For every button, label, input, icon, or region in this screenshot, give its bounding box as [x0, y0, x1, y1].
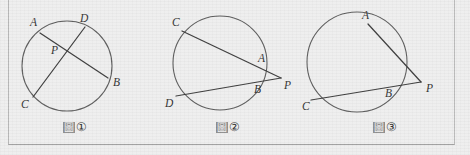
figure-2-caption: 圖② [150, 120, 305, 134]
figure-3-caption: 圖③ [300, 120, 470, 134]
figure-1-drawing: A D B C P [0, 0, 150, 120]
chord-cd [33, 27, 85, 97]
point-label-d: D [164, 97, 174, 109]
secant-pbc [311, 82, 421, 100]
caption-word-3: 圖 [373, 122, 385, 133]
point-label-a: A [29, 16, 38, 28]
figure-1: A D B C P 圖① [0, 0, 150, 155]
caption-number-1: ① [75, 120, 87, 134]
point-label-b: B [113, 76, 120, 88]
point-label-c: C [172, 16, 180, 28]
point-label-p: P [283, 79, 291, 91]
point-label-a: A [361, 9, 370, 21]
caption-number-3: ③ [385, 120, 397, 134]
tangent-pa [368, 24, 421, 82]
point-label-b: B [254, 83, 261, 95]
figure-1-caption: 圖① [0, 120, 150, 134]
circle-1 [22, 21, 112, 111]
figure-2: C A B D P 圖② [150, 0, 305, 155]
secant-pbd [176, 78, 281, 96]
point-label-d: D [79, 12, 89, 24]
circle-2 [173, 16, 267, 110]
point-label-a: A [257, 52, 266, 64]
point-label-c: C [302, 100, 310, 112]
figure-2-drawing: C A B D P [150, 0, 305, 120]
point-label-c: C [21, 98, 29, 110]
figure-3-drawing: A B C P [300, 0, 470, 120]
caption-word-2: 圖 [216, 122, 228, 133]
diagram-page: A D B C P 圖① C A B D P 圖② [0, 0, 470, 155]
figure-3: A B C P 圖③ [300, 0, 470, 155]
point-label-p: P [50, 44, 58, 56]
caption-word-1: 圖 [63, 122, 75, 133]
point-label-b: B [385, 87, 392, 99]
caption-number-2: ② [228, 120, 240, 134]
point-label-p: P [425, 82, 433, 94]
